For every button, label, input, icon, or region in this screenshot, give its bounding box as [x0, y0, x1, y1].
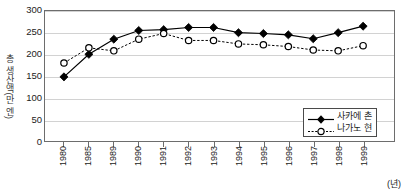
data-point-marker-open-circle [111, 48, 117, 54]
x-tick-label: 1994 [235, 146, 244, 166]
data-point-marker-filled-diamond [259, 29, 267, 37]
data-point-marker-open-circle [260, 42, 266, 48]
data-point-marker-filled-diamond [110, 35, 118, 43]
data-point-marker-filled-diamond [359, 22, 367, 30]
data-point-marker-open-circle [210, 37, 216, 43]
y-tick-label: 0 [16, 137, 42, 147]
x-axis-tick-labels: 1980198519891990199119921993199419951996… [44, 146, 395, 180]
legend-marker-filled-diamond-icon [307, 111, 335, 122]
legend-item-sakae[interactable]: 사카에 촌 [307, 111, 372, 122]
x-tick-label: 1993 [210, 146, 219, 166]
x-tick-label: 1991 [159, 146, 168, 166]
chart-figure: 총 생산액(만 엔) 050100150200250300 1980198519… [0, 0, 404, 191]
data-point-marker-open-circle [360, 43, 366, 49]
x-tick-label: 1992 [184, 146, 193, 166]
data-point-marker-open-circle [185, 37, 191, 43]
data-point-marker-filled-diamond [209, 23, 217, 31]
data-point-marker-open-circle [61, 60, 67, 66]
x-tick-label: 1999 [360, 146, 369, 166]
data-point-marker-open-circle [160, 30, 166, 36]
y-axis-title: 총 생산액(만 엔) [1, 16, 17, 156]
x-tick-label: 1985 [84, 146, 93, 166]
legend-label-sakae: 사카에 촌 [337, 111, 372, 122]
y-tick-label: 100 [16, 93, 42, 103]
data-point-marker-filled-diamond [334, 29, 342, 37]
data-point-marker-filled-diamond [185, 23, 193, 31]
y-axis-tick-labels: 050100150200250300 [16, 0, 42, 191]
data-point-marker-open-circle [335, 48, 341, 54]
data-point-marker-open-circle [136, 36, 142, 42]
x-tick-label: 1998 [335, 146, 344, 166]
x-axis-unit-label: (년) [387, 177, 401, 190]
x-tick-label: 1996 [285, 146, 294, 166]
x-tick-label: 1995 [260, 146, 269, 166]
data-point-marker-open-circle [285, 43, 291, 49]
legend: 사카에 촌 나가노 현 [303, 108, 377, 137]
legend-item-nagano[interactable]: 나가노 현 [307, 123, 372, 134]
x-tick-label: 1990 [134, 146, 143, 166]
x-tick-label: 1997 [310, 146, 319, 166]
y-tick-label: 250 [16, 27, 42, 37]
y-tick-label: 150 [16, 71, 42, 81]
data-point-marker-open-circle [86, 45, 92, 51]
data-point-marker-filled-diamond [309, 35, 317, 43]
legend-marker-open-circle-icon [307, 123, 335, 134]
data-point-marker-filled-diamond [234, 29, 242, 37]
data-point-marker-filled-diamond [284, 31, 292, 39]
data-point-marker-open-circle [310, 47, 316, 53]
series-line-1 [64, 26, 363, 77]
legend-label-nagano: 나가노 현 [337, 123, 372, 134]
y-tick-label: 50 [16, 115, 42, 125]
x-tick-label: 1989 [109, 146, 118, 166]
x-tick-label: 1980 [59, 146, 68, 166]
y-tick-label: 300 [16, 5, 42, 15]
y-tick-label: 200 [16, 49, 42, 59]
data-point-marker-open-circle [235, 41, 241, 47]
data-point-marker-filled-diamond [135, 26, 143, 34]
